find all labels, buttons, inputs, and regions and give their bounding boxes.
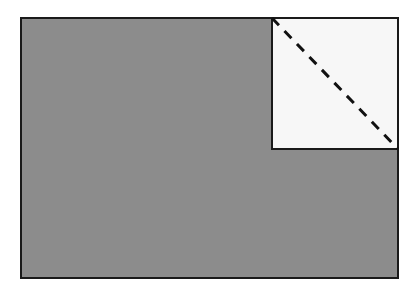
- diagram: [0, 0, 412, 293]
